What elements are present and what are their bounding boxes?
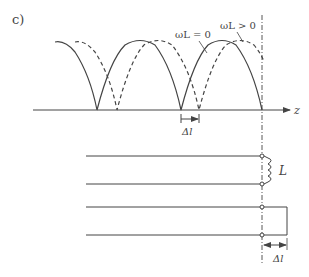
- terminal: [260, 205, 264, 209]
- bottom-shift-label: Δl: [272, 253, 283, 264]
- dashed-curve: [75, 41, 264, 111]
- terminal: [260, 233, 264, 237]
- diagram: c) z ωL = 0 ωL > 0 Δl L Δl: [0, 0, 309, 277]
- inductor-icon: [264, 156, 271, 184]
- shift-label: Δl: [181, 126, 192, 137]
- solid-curve: [55, 41, 262, 111]
- dashed-curve-label: ωL > 0: [220, 20, 256, 31]
- terminal: [260, 182, 264, 186]
- solid-curve-label: ωL = 0: [175, 29, 211, 40]
- inductor-label: L: [278, 164, 287, 178]
- panel-label: c): [12, 12, 24, 27]
- terminal: [260, 154, 264, 158]
- z-axis-label: z: [293, 104, 300, 117]
